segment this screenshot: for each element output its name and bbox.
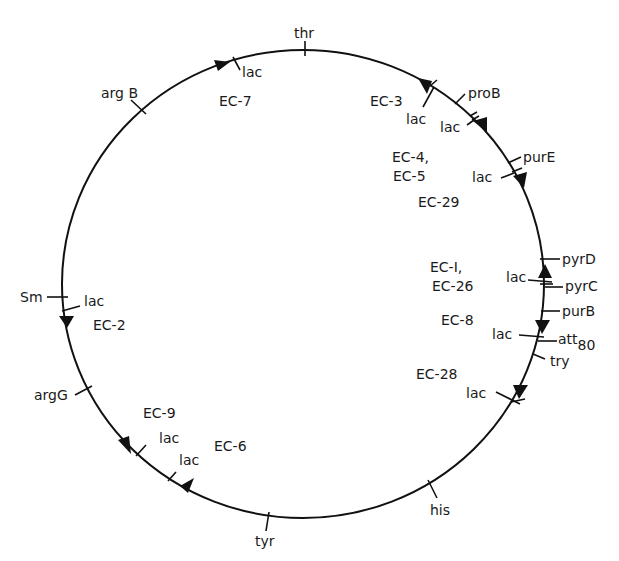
- ec9-lac-tick: [136, 445, 146, 456]
- ec2-lac-label: lac: [84, 293, 104, 309]
- ec45-lac-leader: [467, 120, 474, 125]
- ec6-lac-label: lac: [179, 452, 199, 468]
- strain-EC-28: EC-28: [416, 366, 458, 382]
- strain-EC-26: EC-26: [432, 278, 474, 294]
- ec2-lac-tick: [62, 306, 80, 311]
- proB-tick: [455, 94, 465, 104]
- ec1-26-lac-label: lac: [506, 269, 526, 285]
- strain-EC-3: EC-3: [370, 93, 403, 109]
- strain-EC-5: EC-5: [393, 168, 426, 184]
- ec9-lac-label: lac: [159, 430, 179, 446]
- marker-proB: proB: [468, 85, 501, 101]
- ec2-direction-arrow: [59, 316, 74, 328]
- ec45-lac-label: lac: [440, 119, 460, 135]
- ec1-26-lac-leader: [528, 280, 552, 282]
- ec8-lac-leader: [519, 335, 544, 337]
- ec8-lac-label: lac: [492, 326, 512, 342]
- marker-purE: purE: [523, 149, 555, 165]
- strain-EC-1: EC-I,: [430, 259, 462, 275]
- marker-thr: thr: [294, 25, 314, 41]
- marker-purB: purB: [562, 303, 595, 319]
- ec7-lac-label: lac: [242, 64, 262, 80]
- marker-att80: att80: [558, 331, 595, 353]
- ec29-lac-label: lac: [472, 169, 492, 185]
- ec29-lac-leader: [501, 173, 514, 178]
- ec9-direction-arrow: [118, 436, 131, 454]
- his-tick: [428, 480, 437, 498]
- ec45-lac-tick: [470, 112, 477, 116]
- ec28-lac-label: lac: [466, 385, 486, 401]
- strain-EC-9: EC-9: [143, 405, 176, 421]
- marker-his: his: [430, 502, 450, 518]
- strain-EC-2: EC-2: [93, 317, 126, 333]
- marker-Sm: Sm: [20, 289, 43, 305]
- marker-tyr: tyr: [255, 533, 275, 549]
- ec1-26-direction-arrow: [538, 264, 552, 278]
- marker-pyrC: pyrC: [565, 278, 598, 294]
- strain-EC-4: EC-4,: [392, 149, 429, 165]
- ec3-direction-arrow: [418, 78, 432, 94]
- marker-argG: argG: [34, 387, 68, 403]
- marker-try: try: [550, 353, 570, 369]
- strain-EC-8: EC-8: [441, 312, 474, 328]
- try-tick: [533, 354, 545, 359]
- strain-EC-6: EC-6: [214, 438, 247, 454]
- marker-argB: arg B: [101, 85, 138, 101]
- ec8-direction-arrow: [535, 320, 550, 334]
- marker-pyrD: pyrD: [562, 251, 596, 267]
- strain-EC-7: EC-7: [219, 93, 252, 109]
- genetic-map: thr proB purE pyrD pyrC purB att80 try h…: [0, 0, 619, 561]
- purE-tick: [508, 157, 521, 163]
- ec3-lac-label: lac: [406, 111, 426, 127]
- strain-EC-29: EC-29: [418, 194, 460, 210]
